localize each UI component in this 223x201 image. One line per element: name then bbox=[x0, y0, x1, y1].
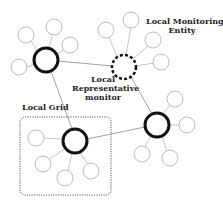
representative-line3: monitor bbox=[72, 93, 134, 102]
hub-node-local-grid bbox=[63, 129, 87, 153]
local-grid-label: Local Grid bbox=[22, 103, 69, 112]
hub-node-d bbox=[145, 113, 169, 137]
local-representative-monitor-label: Local Representative monitor bbox=[72, 75, 134, 102]
local-monitoring-entity-label: Local Monitoring Entity bbox=[146, 17, 218, 35]
monitoring-entity-line2: Entity bbox=[146, 26, 218, 35]
hub-node-a bbox=[34, 48, 58, 72]
